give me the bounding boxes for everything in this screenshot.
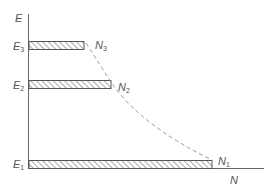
axis-label-e: E xyxy=(15,12,23,24)
level-bar-e3 xyxy=(29,42,84,50)
boltzmann-curve xyxy=(86,43,212,160)
level-bar-e1 xyxy=(29,161,212,169)
population-label-n2: N2 xyxy=(118,81,130,94)
energy-population-diagram: E N E3 E2 E1 N3 N2 N1 xyxy=(0,0,276,192)
level-label-e1: E1 xyxy=(13,158,24,171)
population-label-n3: N3 xyxy=(95,39,107,52)
level-bar-e2 xyxy=(29,81,111,89)
axis-label-n: N xyxy=(230,174,238,186)
level-label-e3: E3 xyxy=(13,40,24,53)
level-label-e2: E2 xyxy=(13,79,24,92)
population-label-n1: N1 xyxy=(218,155,230,168)
